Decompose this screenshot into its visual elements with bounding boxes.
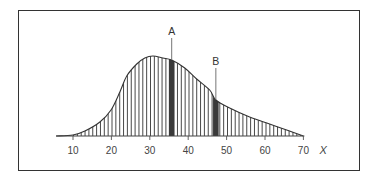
hatch-fill xyxy=(58,40,301,136)
tick-label: 40 xyxy=(183,145,195,156)
x-axis-ticks: 10203040506070 xyxy=(67,136,309,156)
tick-label: 30 xyxy=(144,145,156,156)
x-axis-label: X xyxy=(318,144,327,156)
tick-label: 70 xyxy=(298,145,310,156)
marker-a-label: A xyxy=(168,25,175,37)
tick-label: 50 xyxy=(221,145,233,156)
tick-label: 10 xyxy=(67,145,79,156)
density-chart: 10203040506070 X A B xyxy=(0,0,379,179)
highlight-bands xyxy=(169,40,219,136)
tick-label: 20 xyxy=(106,145,118,156)
tick-label: 60 xyxy=(259,145,271,156)
marker-b-label: B xyxy=(212,55,219,67)
